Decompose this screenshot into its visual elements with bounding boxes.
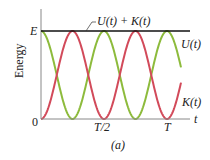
x-axis-label: t <box>194 113 197 125</box>
y-axis-label: Energy <box>12 44 27 78</box>
y-tick-zero: 0 <box>32 116 38 128</box>
u-label: U(t) <box>181 38 201 50</box>
figure-caption: (a) <box>111 139 125 151</box>
y-tick-e: E <box>30 25 37 37</box>
sum-label: U(t) + K(t) <box>97 15 150 27</box>
k-label: K(t) <box>182 96 201 108</box>
plot-area <box>41 31 181 119</box>
x-tick-half: T/2 <box>94 121 110 133</box>
x-tick-full: T <box>164 121 171 133</box>
sum-leader-line <box>86 22 96 31</box>
